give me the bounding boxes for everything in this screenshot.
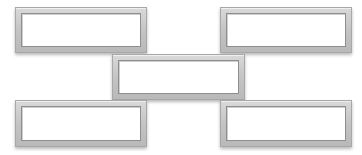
box-center bbox=[112, 54, 245, 100]
box-center-label bbox=[118, 60, 239, 94]
box-top-right-label bbox=[226, 13, 346, 47]
box-bottom-left bbox=[15, 100, 147, 147]
box-top-left-label bbox=[21, 13, 141, 47]
box-bottom-right-label bbox=[226, 106, 346, 141]
diagram-canvas bbox=[0, 0, 362, 155]
box-bottom-left-label bbox=[21, 106, 141, 141]
box-top-left bbox=[15, 7, 147, 53]
box-bottom-right bbox=[220, 100, 352, 147]
box-top-right bbox=[220, 7, 352, 53]
